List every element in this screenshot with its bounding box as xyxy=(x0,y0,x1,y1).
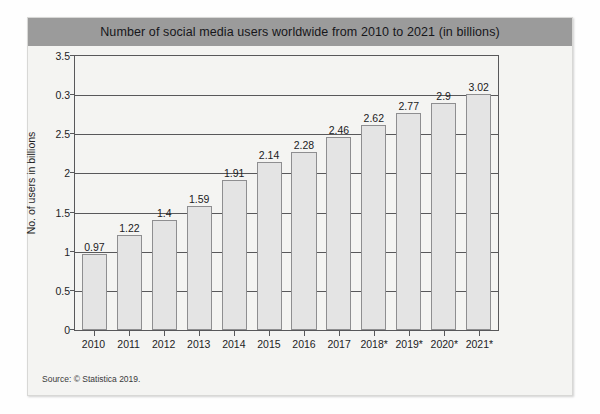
page-title: Number of social media users worldwide f… xyxy=(100,25,500,39)
bar-slot: 2.46 xyxy=(321,56,356,330)
y-axis-tick-label: 2 xyxy=(64,167,70,179)
x-axis-slot: 2014 xyxy=(216,331,251,365)
x-axis-slot: 2017 xyxy=(322,331,357,365)
x-axis-tick-mark xyxy=(304,331,305,336)
x-axis-tick-mark xyxy=(199,331,200,336)
bar-value-label: 2.77 xyxy=(399,100,419,112)
bar-2020[interactable]: 2.9 xyxy=(431,103,456,330)
x-axis-tick-label: 2011 xyxy=(117,338,140,350)
bar-2013[interactable]: 1.59 xyxy=(187,206,212,330)
x-axis-tick-mark xyxy=(374,331,375,336)
y-axis-tick-label: 0 xyxy=(64,324,70,336)
bar-slot: 2.14 xyxy=(252,56,287,330)
bar-slot: 2.62 xyxy=(356,56,391,330)
bar-2018[interactable]: 2.62 xyxy=(361,125,386,330)
bar-2017[interactable]: 2.46 xyxy=(326,137,351,330)
bar-slot: 2.28 xyxy=(287,56,322,330)
bar-value-label: 0.97 xyxy=(84,241,104,253)
plot-area: 00.511.522.50.33.5 0.971.221.41.591.912.… xyxy=(74,55,499,331)
y-axis-tick-label: 1.5 xyxy=(55,207,70,219)
bar-slot: 1.4 xyxy=(147,56,182,330)
bar-slot: 2.9 xyxy=(426,56,461,330)
x-axis-tick-mark xyxy=(129,331,130,336)
x-axis-slot: 2012 xyxy=(146,331,181,365)
x-axis-tick-label: 2013 xyxy=(187,338,210,350)
chart-title-band: Number of social media users worldwide f… xyxy=(28,18,572,46)
bar-slot: 1.91 xyxy=(217,56,252,330)
bar-value-label: 2.28 xyxy=(294,139,314,151)
x-axis-tick-mark xyxy=(164,331,165,336)
x-axis-tick-label: 2018* xyxy=(360,338,387,350)
x-axis-slot: 2013 xyxy=(181,331,216,365)
x-axis-tick-label: 2017 xyxy=(327,338,350,350)
chart-page: Number of social media users worldwide f… xyxy=(0,0,600,414)
x-axis-tick-label: 2014 xyxy=(222,338,245,350)
bar-series: 0.971.221.41.591.912.142.282.462.622.772… xyxy=(75,56,498,330)
y-axis-tick-label: 1 xyxy=(64,246,70,258)
bar-2010[interactable]: 0.97 xyxy=(82,254,107,330)
x-axis-tick-mark xyxy=(409,331,410,336)
bar-2019[interactable]: 2.77 xyxy=(396,113,421,330)
bar-value-label: 2.14 xyxy=(259,149,279,161)
y-axis-tick-label: 0.5 xyxy=(55,285,70,297)
bar-2014[interactable]: 1.91 xyxy=(222,180,247,330)
x-axis-tick-label: 2012 xyxy=(152,338,175,350)
y-axis-tick-label: 3.5 xyxy=(55,50,70,62)
y-axis-tick-label: 2.5 xyxy=(55,128,70,140)
x-axis-slot: 2021* xyxy=(462,331,497,365)
bar-value-label: 1.4 xyxy=(157,207,172,219)
x-axis-tick-mark xyxy=(444,331,445,336)
x-axis-slot: 2015 xyxy=(251,331,286,365)
x-axis-slot: 2019* xyxy=(392,331,427,365)
x-axis-tick-label: 2015 xyxy=(257,338,280,350)
x-axis-slot: 2018* xyxy=(357,331,392,365)
bar-slot: 1.59 xyxy=(182,56,217,330)
y-axis-tick-label: 0.3 xyxy=(55,89,70,101)
x-axis-tick-mark xyxy=(339,331,340,336)
x-axis-slot: 2020* xyxy=(427,331,462,365)
x-axis-tick-mark xyxy=(479,331,480,336)
bar-2011[interactable]: 1.22 xyxy=(117,235,142,331)
y-axis-title: No. of users in billions xyxy=(25,108,41,258)
bar-value-label: 2.9 xyxy=(436,90,451,102)
bar-value-label: 1.59 xyxy=(189,193,209,205)
bar-value-label: 2.62 xyxy=(364,112,384,124)
bar-2021[interactable]: 3.02 xyxy=(466,94,491,330)
x-axis-tick-label: 2019* xyxy=(396,338,423,350)
bar-2016[interactable]: 2.28 xyxy=(291,152,316,330)
bar-value-label: 1.91 xyxy=(224,167,244,179)
x-axis-slot: 2010 xyxy=(76,331,111,365)
x-axis-ticks: 201020112012201320142015201620172018*201… xyxy=(74,331,499,365)
x-axis-tick-label: 2020* xyxy=(431,338,458,350)
x-axis-slot: 2016 xyxy=(286,331,321,365)
bar-2015[interactable]: 2.14 xyxy=(257,162,282,330)
bar-slot: 2.77 xyxy=(391,56,426,330)
source-note: Source: © Statistica 2019. xyxy=(42,374,140,384)
bar-value-label: 1.22 xyxy=(119,222,139,234)
x-axis-tick-mark xyxy=(234,331,235,336)
figure-panel: Number of social media users worldwide f… xyxy=(27,17,573,396)
x-axis-tick-mark xyxy=(269,331,270,336)
x-axis-tick-label: 2016 xyxy=(292,338,315,350)
bar-slot: 1.22 xyxy=(112,56,147,330)
bar-slot: 0.97 xyxy=(77,56,112,330)
x-axis-tick-mark xyxy=(94,331,95,336)
bar-value-label: 2.46 xyxy=(329,124,349,136)
bar-value-label: 3.02 xyxy=(468,81,488,93)
plot-region: No. of users in billions 00.511.522.50.3… xyxy=(28,46,572,395)
x-axis-tick-label: 2021* xyxy=(466,338,493,350)
x-axis-slot: 2011 xyxy=(111,331,146,365)
bar-slot: 3.02 xyxy=(461,56,496,330)
bar-2012[interactable]: 1.4 xyxy=(152,220,177,330)
x-axis-tick-label: 2010 xyxy=(82,338,105,350)
